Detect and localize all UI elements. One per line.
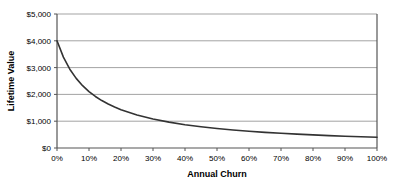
y-tick-label: $1,000 [27,117,52,126]
x-axis-title: Annual Churn [187,169,247,179]
x-tick-label: 10% [81,154,97,163]
x-tick-label: 80% [305,154,321,163]
y-tick-label: $0 [42,144,51,153]
y-tick-label: $5,000 [27,10,52,19]
x-tick-label: 40% [177,154,193,163]
y-axis-title: Lifetime Value [6,51,16,112]
y-tick-label: $3,000 [27,64,52,73]
x-tick-label: 30% [145,154,161,163]
y-tick-label: $2,000 [27,90,52,99]
chart-container: $0$1,000$2,000$3,000$4,000$5,000 0%10%20… [0,0,398,189]
x-tick-label: 70% [273,154,289,163]
line-chart: $0$1,000$2,000$3,000$4,000$5,000 0%10%20… [0,0,398,189]
x-tick-label: 90% [337,154,353,163]
y-tick-label: $4,000 [27,37,52,46]
x-tick-label: 0% [51,154,63,163]
x-tick-label: 20% [113,154,129,163]
x-tick-label: 50% [209,154,225,163]
x-tick-label: 60% [241,154,257,163]
x-tick-label: 100% [367,154,387,163]
